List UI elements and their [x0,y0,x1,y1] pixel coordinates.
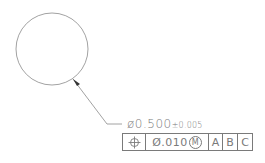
datum-b-cell: B [223,134,238,150]
leader-arrowhead [73,79,80,86]
tolerance-diameter-symbol: Ø [152,136,161,149]
nominal-value: 0.500 [135,117,172,131]
feature-control-frame: Ø.010M A B C [122,133,253,151]
datum-a-cell: A [209,134,223,150]
tolerance-value: ±0.005 [172,121,203,130]
tolerance-zone-value: .010 [161,136,188,149]
hole-feature [16,13,88,85]
position-cell [123,134,146,150]
drawing-canvas: ø0.500±0.005 Ø.010M A B C [0,0,265,163]
mmc-modifier-icon: M [189,136,202,149]
tolerance-cell: Ø.010M [146,134,209,150]
datum-c-cell: C [238,134,252,150]
diameter-dimension: ø0.500±0.005 [127,117,203,131]
diameter-symbol: ø [127,117,135,131]
position-icon [128,136,141,149]
leader-line [73,79,122,124]
